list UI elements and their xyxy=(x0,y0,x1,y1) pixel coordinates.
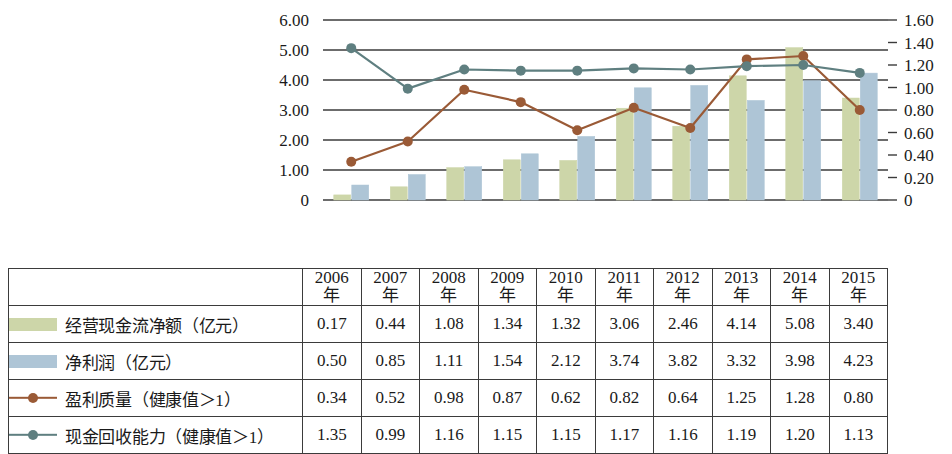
year-unit: 年 xyxy=(479,287,537,305)
series-label-inner: 现金回收能力（健康值＞1） xyxy=(9,423,302,448)
cell-2010: 0.62 xyxy=(537,380,596,417)
bar-netprofit-2008 xyxy=(465,167,482,200)
column-header-2009: 2009年 xyxy=(478,269,537,306)
cell-2011: 1.17 xyxy=(595,417,654,454)
series-label-cell: 盈利质量（健康值＞1） xyxy=(9,380,303,417)
cell-2015: 4.23 xyxy=(829,343,888,380)
bar-netprofit-2012 xyxy=(691,85,708,200)
data-point-2008 xyxy=(459,85,469,95)
cell-2009: 1.34 xyxy=(478,306,537,343)
cell-2012: 2.46 xyxy=(654,306,713,343)
cell-2010: 1.32 xyxy=(537,306,596,343)
series-name: 净利润（亿元） xyxy=(65,349,182,374)
year-number: 2011 xyxy=(596,269,654,287)
bar-cashflow-2010 xyxy=(560,160,577,200)
right-axis-label: 1.40 xyxy=(904,34,934,53)
data-point-2007 xyxy=(403,137,413,147)
bar-cashflow-2006 xyxy=(334,195,351,200)
cell-2013: 3.32 xyxy=(712,343,771,380)
cell-2015: 3.40 xyxy=(829,306,888,343)
year-label: 2012年 xyxy=(654,269,712,305)
left-axis-label: 2.00 xyxy=(279,131,309,150)
column-header-2013: 2013年 xyxy=(712,269,771,306)
right-axis-label: 0.40 xyxy=(904,146,934,165)
cell-2011: 0.82 xyxy=(595,380,654,417)
cell-2010: 2.12 xyxy=(537,343,596,380)
year-unit: 年 xyxy=(771,287,829,305)
cell-2014: 1.28 xyxy=(771,380,830,417)
cell-2009: 1.54 xyxy=(478,343,537,380)
year-number: 2014 xyxy=(771,269,829,287)
data-table: 2006年2007年2008年2009年2010年2011年2012年2013年… xyxy=(8,268,888,454)
left-axis-label: 3.00 xyxy=(279,101,309,120)
cell-2007: 0.44 xyxy=(361,306,420,343)
cell-2007: 0.85 xyxy=(361,343,420,380)
left-axis-label: 5.00 xyxy=(279,41,309,60)
cell-2006: 1.35 xyxy=(303,417,362,454)
cell-2007: 0.99 xyxy=(361,417,420,454)
data-point-2014 xyxy=(798,60,808,70)
bar-cashflow-2008 xyxy=(447,168,464,200)
year-number: 2006 xyxy=(303,269,361,287)
data-point-2013 xyxy=(742,61,752,71)
gridlines xyxy=(323,20,888,200)
cell-2008: 1.11 xyxy=(420,343,479,380)
cell-2009: 0.87 xyxy=(478,380,537,417)
left-axis-label: 4.00 xyxy=(279,71,309,90)
table-header-row: 2006年2007年2008年2009年2010年2011年2012年2013年… xyxy=(9,269,888,306)
year-number: 2010 xyxy=(537,269,595,287)
data-point-2014 xyxy=(798,51,808,61)
column-header-2007: 2007年 xyxy=(361,269,420,306)
cell-2008: 1.08 xyxy=(420,306,479,343)
column-header-2011: 2011年 xyxy=(595,269,654,306)
bar-netprofit-2013 xyxy=(747,100,764,200)
row-operating-cashflow: 经营现金流净额（亿元）0.170.441.081.341.323.062.464… xyxy=(9,306,888,343)
data-point-2012 xyxy=(685,123,695,133)
bar-cashflow-2011 xyxy=(616,108,633,200)
cell-2011: 3.06 xyxy=(595,306,654,343)
series-name: 现金回收能力（健康值＞1） xyxy=(65,423,274,448)
bar-netprofit-2006 xyxy=(352,185,369,200)
right-axis-label: 0.60 xyxy=(904,124,934,143)
legend-line-teal xyxy=(9,429,57,442)
legend-line-brown xyxy=(9,392,57,405)
column-header-2008: 2008年 xyxy=(420,269,479,306)
cell-2012: 3.82 xyxy=(654,343,713,380)
year-number: 2007 xyxy=(362,269,420,287)
cell-2009: 1.15 xyxy=(478,417,537,454)
data-point-2006 xyxy=(346,43,356,53)
cell-2015: 1.13 xyxy=(829,417,888,454)
data-point-2011 xyxy=(629,63,639,73)
year-unit: 年 xyxy=(303,287,361,305)
bar-netprofit-2015 xyxy=(860,73,877,200)
row-net-profit: 净利润（亿元）0.500.851.111.542.123.743.823.323… xyxy=(9,343,888,380)
series-name: 经营现金流净额（亿元） xyxy=(65,312,249,337)
cell-2006: 0.34 xyxy=(303,380,362,417)
column-header-2015: 2015年 xyxy=(829,269,888,306)
cell-2014: 5.08 xyxy=(771,306,830,343)
year-number: 2015 xyxy=(830,269,888,287)
data-point-2015 xyxy=(855,105,865,115)
left-axis-label: 6.00 xyxy=(279,11,309,30)
data-point-2010 xyxy=(572,66,582,76)
year-unit: 年 xyxy=(596,287,654,305)
data-point-2009 xyxy=(516,97,526,107)
year-label: 2010年 xyxy=(537,269,595,305)
column-header-2012: 2012年 xyxy=(654,269,713,306)
year-number: 2009 xyxy=(479,269,537,287)
chart-svg: 01.002.003.004.005.006.0000.200.400.600.… xyxy=(0,0,952,268)
bar-netprofit-2014 xyxy=(804,81,821,200)
table-body: 2006年2007年2008年2009年2010年2011年2012年2013年… xyxy=(9,269,888,454)
year-unit: 年 xyxy=(654,287,712,305)
cell-2010: 1.15 xyxy=(537,417,596,454)
year-label: 2007年 xyxy=(362,269,420,305)
right-axis-label: 0.20 xyxy=(904,169,934,188)
cell-2007: 0.52 xyxy=(361,380,420,417)
chart-figure: 01.002.003.004.005.006.0000.200.400.600.… xyxy=(0,0,952,268)
column-header-2010: 2010年 xyxy=(537,269,596,306)
bar-cashflow-2014 xyxy=(786,48,803,200)
cell-2012: 1.16 xyxy=(654,417,713,454)
year-unit: 年 xyxy=(830,287,888,305)
cell-2014: 3.98 xyxy=(771,343,830,380)
cell-2008: 1.16 xyxy=(420,417,479,454)
